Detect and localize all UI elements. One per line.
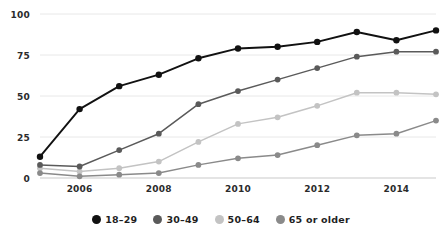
legend-marker-icon [92, 215, 101, 224]
data-point [235, 45, 241, 51]
data-point [235, 155, 241, 161]
data-point [77, 164, 83, 170]
data-point [314, 39, 320, 45]
series-50-64 [37, 90, 439, 175]
data-point [156, 170, 162, 176]
gridlines [40, 14, 436, 178]
y-axis-ticks: 0255075100 [11, 10, 30, 184]
data-point [196, 139, 202, 145]
x-axis-tick-label: 2012 [304, 184, 330, 194]
x-axis-ticks: 20062008201020122014 [67, 184, 410, 194]
data-point [116, 165, 122, 171]
y-axis-tick-label: 25 [17, 133, 30, 143]
data-point [116, 147, 122, 153]
data-point [354, 54, 360, 60]
line-chart: 0255075100 20062008201020122014 18–2930–… [0, 0, 442, 235]
data-point [274, 44, 280, 50]
data-point [275, 77, 281, 83]
data-point [314, 103, 320, 109]
data-point [314, 142, 320, 148]
data-point [235, 88, 241, 94]
data-point [314, 65, 320, 71]
y-axis-tick-label: 50 [17, 92, 30, 102]
series-line [40, 52, 436, 167]
x-axis-tick-label: 2010 [225, 184, 251, 194]
data-point [394, 131, 400, 137]
data-point [433, 118, 439, 124]
data-point [196, 101, 202, 107]
data-point [393, 37, 399, 43]
x-axis-tick-label: 2008 [146, 184, 172, 194]
legend-marker-icon [153, 215, 162, 224]
data-point [394, 49, 400, 55]
legend-item-label: 65 or older [289, 214, 350, 225]
data-point [433, 27, 439, 33]
data-point [37, 153, 43, 159]
x-axis-tick-label: 2014 [383, 184, 409, 194]
data-point [354, 90, 360, 96]
data-series-group [37, 27, 439, 179]
legend-marker-icon [215, 215, 224, 224]
legend-item-3[interactable]: 65 or older [276, 214, 350, 225]
data-point [354, 132, 360, 138]
data-point [76, 106, 82, 112]
legend-item-label: 50–64 [228, 214, 260, 225]
y-axis-tick-label: 0 [24, 174, 30, 184]
legend-item-0[interactable]: 18–29 [92, 214, 137, 225]
data-point [77, 173, 83, 179]
data-point [116, 172, 122, 178]
data-point [196, 162, 202, 168]
legend-item-label: 30–49 [166, 214, 198, 225]
data-point [433, 91, 439, 97]
data-point [354, 29, 360, 35]
data-point [37, 170, 43, 176]
chart-canvas: 0255075100 20062008201020122014 [0, 0, 442, 202]
data-point [37, 162, 43, 168]
legend-marker-icon [276, 215, 285, 224]
data-point [275, 114, 281, 120]
y-axis-tick-label: 100 [11, 10, 30, 20]
data-point [433, 49, 439, 55]
data-point [156, 131, 162, 137]
legend-item-2[interactable]: 50–64 [215, 214, 260, 225]
data-point [156, 71, 162, 77]
data-point [156, 159, 162, 165]
y-axis-tick-label: 75 [17, 51, 30, 61]
x-axis-tick-label: 2006 [67, 184, 93, 194]
data-point [275, 152, 281, 158]
series-line [40, 121, 436, 177]
series-30-49 [37, 49, 439, 170]
data-point [235, 121, 241, 127]
data-point [394, 90, 400, 96]
data-point [116, 83, 122, 89]
plot-area: 0255075100 20062008201020122014 [0, 0, 442, 202]
data-point [195, 55, 201, 61]
chart-legend: 18–2930–4950–6465 or older [0, 203, 442, 235]
legend-item-label: 18–29 [105, 214, 137, 225]
legend-item-1[interactable]: 30–49 [153, 214, 198, 225]
